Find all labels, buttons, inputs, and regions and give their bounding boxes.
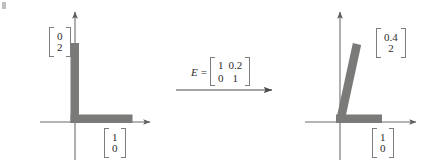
left-vector-e1-label: 1 0 (104, 128, 126, 158)
equation-matrix: 1 0.2 0 1 (210, 57, 250, 86)
left-e1-row1: 0 (111, 143, 119, 154)
matrix-cell-r0c0: 1 (218, 59, 224, 71)
right-vector-e1-label: 1 0 (372, 128, 394, 158)
right-sheared-row1: 2 (387, 43, 395, 54)
right-vector-e1-bar (336, 115, 382, 124)
bracket-right (245, 57, 250, 86)
equation-symbol-E: E (191, 66, 201, 78)
matrix-cell-r0c1: 0.2 (228, 59, 242, 71)
right-e1-row1: 0 (379, 143, 387, 154)
left-vector-e2-label: 0 2 (49, 27, 71, 57)
bracket-right (401, 28, 406, 58)
matrix-cell-r1c1: 1 (228, 72, 242, 84)
left-e2-row1: 2 (56, 42, 64, 53)
bracket-right (389, 128, 394, 158)
right-vector-sheared-label: 0.4 2 (376, 28, 406, 58)
bracket-right (121, 128, 126, 158)
transform-equation: E = 1 0.2 0 1 (191, 57, 250, 86)
right-vector-sheared-bar (341, 44, 358, 120)
left-vector-e2-bar (71, 43, 80, 123)
equation-equals-sign: = (201, 66, 210, 78)
bracket-right (66, 27, 71, 57)
matrix-cell-r1c0: 0 (218, 72, 224, 84)
left-vector-e1-bar (71, 115, 133, 124)
left-plot-vectors (71, 43, 133, 123)
